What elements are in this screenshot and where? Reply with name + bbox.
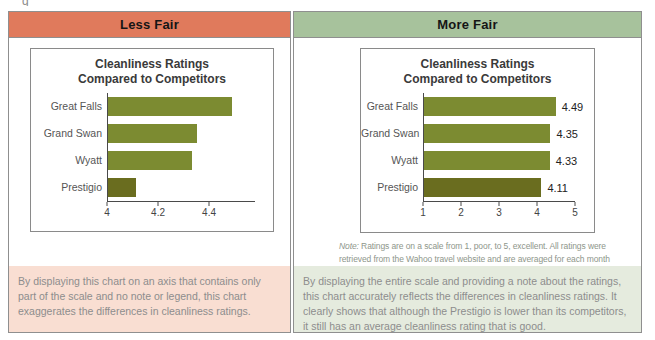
x-tick-label: 4.4 bbox=[202, 207, 216, 218]
chart-title-line2: Compared to Competitors bbox=[31, 72, 273, 87]
bar-wyatt bbox=[108, 151, 192, 170]
bar-track: 4.33 bbox=[423, 147, 575, 174]
x-axis: 44.24.4 bbox=[107, 201, 255, 220]
bar-track: 4.35 bbox=[423, 120, 575, 147]
bar-value-label: 4.49 bbox=[562, 101, 583, 113]
chart-title-less-fair: Cleanliness Ratings Compared to Competit… bbox=[31, 49, 273, 87]
x-tick-label: 3 bbox=[496, 207, 502, 218]
chart-title-line2: Compared to Competitors bbox=[361, 72, 594, 87]
bar-track: 4.11 bbox=[423, 174, 575, 201]
less-fair-header-label: Less Fair bbox=[120, 17, 179, 32]
chart-note-prefix: Note: bbox=[339, 241, 359, 251]
chart-less-fair: Cleanliness Ratings Compared to Competit… bbox=[30, 48, 274, 232]
category-label: Great Falls bbox=[31, 93, 107, 120]
x-tick-mark bbox=[499, 202, 500, 206]
bar-great-falls bbox=[108, 97, 232, 116]
more-fair-explanation-text: By displaying the entire scale and provi… bbox=[303, 275, 626, 332]
chart-more-fair: Cleanliness Ratings Compared to Competit… bbox=[360, 48, 595, 233]
chart-row: Great Falls bbox=[31, 93, 273, 120]
x-axis: 12345 bbox=[423, 201, 575, 220]
category-label: Grand Swan bbox=[361, 120, 423, 147]
chart-row: Grand Swan bbox=[31, 120, 273, 147]
x-tick-mark bbox=[423, 202, 424, 206]
x-tick-mark bbox=[575, 202, 576, 206]
chart-row: Prestigio bbox=[31, 174, 273, 201]
cropped-text-fragment: g bbox=[22, 0, 44, 6]
panel-less-fair: Less Fair Cleanliness Ratings Compared t… bbox=[8, 11, 291, 333]
bar-prestigio bbox=[424, 178, 541, 197]
chart-rows: Great Falls4.49Grand Swan4.35Wyatt4.33Pr… bbox=[361, 93, 594, 201]
x-tick-mark bbox=[209, 202, 210, 206]
x-tick-label: 4 bbox=[104, 207, 110, 218]
x-tick-label: 1 bbox=[420, 207, 426, 218]
more-fair-header-label: More Fair bbox=[437, 17, 497, 32]
panel-more-fair: More Fair Cleanliness Ratings Compared t… bbox=[293, 11, 642, 333]
bar-track: 4.49 bbox=[423, 93, 575, 120]
chart-row: Wyatt bbox=[31, 147, 273, 174]
category-label: Prestigio bbox=[361, 174, 423, 201]
chart-title-line1: Cleanliness Ratings bbox=[361, 57, 594, 72]
x-tick-label: 2 bbox=[458, 207, 464, 218]
bar-value-label: 4.35 bbox=[556, 128, 577, 140]
x-tick-mark bbox=[461, 202, 462, 206]
x-tick-mark bbox=[158, 202, 159, 206]
x-tick-label: 4.2 bbox=[151, 207, 165, 218]
bar-track bbox=[107, 174, 255, 201]
plot-area-less-fair: Great FallsGrand SwanWyattPrestigio 44.2… bbox=[31, 93, 273, 220]
category-label: Grand Swan bbox=[31, 120, 107, 147]
chart-row: Great Falls4.49 bbox=[361, 93, 594, 120]
x-tick-label: 4 bbox=[534, 207, 540, 218]
bar-wyatt bbox=[424, 151, 550, 170]
category-label: Wyatt bbox=[31, 147, 107, 174]
x-tick-mark bbox=[537, 202, 538, 206]
chart-title-more-fair: Cleanliness Ratings Compared to Competit… bbox=[361, 49, 594, 87]
figure-canvas: g Less Fair Cleanliness Ratings Compared… bbox=[0, 0, 655, 340]
chart-title-line1: Cleanliness Ratings bbox=[31, 57, 273, 72]
bar-track bbox=[107, 120, 255, 147]
bar-grand-swan bbox=[424, 124, 550, 143]
x-tick-label: 5 bbox=[572, 207, 578, 218]
bar-prestigio bbox=[108, 178, 136, 197]
bar-great-falls bbox=[424, 97, 556, 116]
chart-row: Prestigio4.11 bbox=[361, 174, 594, 201]
chart-row: Wyatt4.33 bbox=[361, 147, 594, 174]
category-label: Wyatt bbox=[361, 147, 423, 174]
chart-rows: Great FallsGrand SwanWyattPrestigio bbox=[31, 93, 273, 201]
plot-area-more-fair: Great Falls4.49Grand Swan4.35Wyatt4.33Pr… bbox=[361, 93, 594, 220]
bar-track bbox=[107, 147, 255, 174]
bar-grand-swan bbox=[108, 124, 197, 143]
less-fair-header: Less Fair bbox=[9, 12, 290, 38]
bar-value-label: 4.33 bbox=[556, 155, 577, 167]
chart-row: Grand Swan4.35 bbox=[361, 120, 594, 147]
cropped-text-glyph: g bbox=[22, 0, 29, 6]
x-tick-mark bbox=[107, 202, 108, 206]
bar-value-label: 4.11 bbox=[547, 182, 568, 194]
bar-track bbox=[107, 93, 255, 120]
more-fair-explanation: By displaying the entire scale and provi… bbox=[294, 266, 641, 332]
category-label: Great Falls bbox=[361, 93, 423, 120]
less-fair-explanation-text: By displaying this chart on an axis that… bbox=[18, 275, 261, 317]
category-label: Prestigio bbox=[31, 174, 107, 201]
more-fair-header: More Fair bbox=[294, 12, 641, 38]
less-fair-explanation: By displaying this chart on an axis that… bbox=[9, 266, 290, 332]
